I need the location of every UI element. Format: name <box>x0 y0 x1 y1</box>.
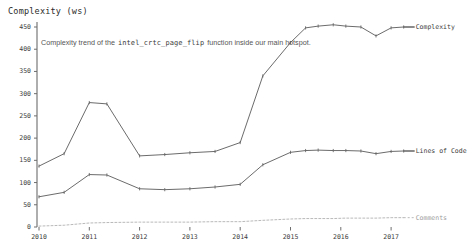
x-tick-label: 2010 <box>19 233 59 241</box>
series-line-comments <box>39 218 404 226</box>
series-label-comments: Comments <box>416 214 447 222</box>
y-tick-label: 50 <box>9 201 31 209</box>
x-tick-label: 2016 <box>321 233 361 241</box>
x-tick-label: 2013 <box>170 233 210 241</box>
y-tick-label: 100 <box>9 179 31 187</box>
y-tick-label: 0 <box>9 223 31 231</box>
annotation-suffix: function inside our main hotspot. <box>207 38 310 47</box>
series-line-lines-of-code <box>39 150 404 197</box>
y-tick-label: 450 <box>9 23 31 31</box>
y-tick-label: 200 <box>9 134 31 142</box>
annotation-prefix: Complexity trend of the <box>41 38 115 47</box>
x-tick-label: 2012 <box>120 233 160 241</box>
y-tick-label: 250 <box>9 112 31 120</box>
annotation-code: intel_crtc_page_flip <box>115 39 207 47</box>
y-tick-label: 150 <box>9 156 31 164</box>
series-label-lines-of-code: Lines of Code <box>416 147 467 155</box>
x-tick-label: 2017 <box>371 233 411 241</box>
x-tick-label: 2015 <box>271 233 311 241</box>
x-tick-label: 2011 <box>69 233 109 241</box>
chart-annotation: Complexity trend of theintel_crtc_page_f… <box>41 38 311 48</box>
x-tick-label: 2014 <box>220 233 260 241</box>
y-tick-label: 400 <box>9 45 31 53</box>
y-tick-label: 350 <box>9 67 31 75</box>
y-tick-label: 300 <box>9 90 31 98</box>
series-label-complexity: Complexity <box>416 23 455 31</box>
